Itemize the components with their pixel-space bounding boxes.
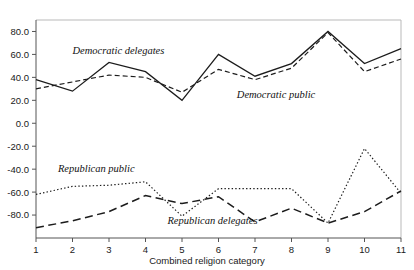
series-label-democratic-public: Democratic public: [236, 89, 316, 100]
series-line-democratic-delegates: [36, 31, 401, 100]
x-tick-label: 10: [359, 244, 370, 255]
y-tick-label: -80.0: [7, 209, 29, 220]
line-chart: 80.060.040.020.00.0-20.0-40.0-60.0-80.0 …: [0, 0, 414, 270]
y-tick-label: 40.0: [11, 72, 30, 83]
y-tick-label: 0.0: [16, 118, 29, 129]
x-tick-label: 7: [252, 244, 257, 255]
x-tick-label: 9: [325, 244, 330, 255]
series-line-republican-public: [36, 149, 401, 224]
x-tick-label: 1: [33, 244, 38, 255]
chart-container: 80.060.040.020.00.0-20.0-40.0-60.0-80.0 …: [0, 0, 414, 270]
x-tick-label: 11: [396, 244, 406, 255]
x-tick-label: 6: [216, 244, 221, 255]
x-tick-label: 4: [143, 244, 148, 255]
series-label-republican-public: Republican public: [57, 163, 135, 174]
series-lines: [36, 31, 401, 227]
series-line-democratic-public: [36, 33, 401, 93]
x-tick-label: 2: [70, 244, 75, 255]
x-tick-label: 3: [106, 244, 111, 255]
y-tick-label: -40.0: [7, 164, 29, 175]
x-tick-label: 5: [179, 244, 184, 255]
y-tick-label: 20.0: [11, 95, 30, 106]
y-tick-label: 80.0: [11, 26, 30, 37]
y-axis-ticks: 80.060.040.020.00.0-20.0-40.0-60.0-80.0: [7, 26, 36, 221]
y-tick-label: 60.0: [11, 49, 30, 60]
x-tick-label: 8: [289, 244, 294, 255]
y-tick-label: -60.0: [7, 187, 29, 198]
series-label-republican-delegates: Republican delegates: [166, 215, 257, 226]
x-axis-title: Combined religion category: [149, 255, 265, 266]
series-label-democratic-delegates: Democratic delegates: [72, 45, 165, 56]
x-axis-ticks: 1234567891011: [33, 238, 406, 255]
y-tick-label: -20.0: [7, 141, 29, 152]
